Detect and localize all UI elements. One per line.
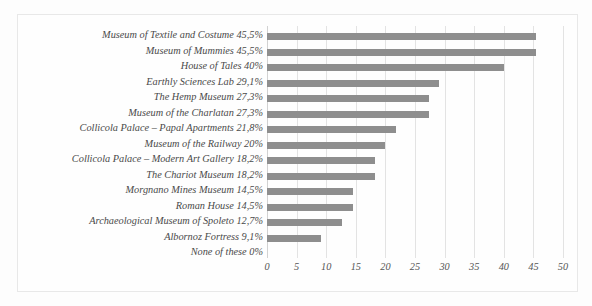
bar-row (267, 232, 563, 248)
chart-frame: Museum of Textile and Costume 45,5%Museu… (17, 14, 578, 292)
gridline-50 (563, 26, 564, 258)
tick-label-50: 50 (558, 261, 568, 272)
bar (267, 49, 536, 56)
category-label: Collicola Palace – Papal Apartments 21,8… (23, 120, 263, 136)
bar-row (267, 92, 563, 108)
chart-screenshot: Museum of Textile and Costume 45,5%Museu… (0, 0, 592, 306)
category-label: Museum of Textile and Costume 45,5% (23, 27, 263, 43)
category-label: None of these 0% (23, 244, 263, 260)
tick-label-45: 45 (528, 261, 538, 272)
category-label: The Hemp Museum 27,3% (23, 89, 263, 105)
category-label: Museum of the Charlatan 27,3% (23, 105, 263, 121)
tick-label-5: 5 (294, 261, 299, 272)
category-label: Archaeological Museum of Spoleto 12,7% (23, 213, 263, 229)
category-label: Museum of the Railway 20% (23, 136, 263, 152)
category-label: Collicola Palace – Modern Art Gallery 18… (23, 151, 263, 167)
bar (267, 188, 353, 195)
bar (267, 173, 375, 180)
bar-row (267, 201, 563, 217)
plot-area (267, 26, 563, 258)
tick-label-10: 10 (321, 261, 331, 272)
bar-row (267, 61, 563, 77)
bar (267, 157, 375, 164)
tick-label-20: 20 (380, 261, 390, 272)
bar-row (267, 108, 563, 124)
bar (267, 95, 429, 102)
bar-row (267, 170, 563, 186)
bar-row (267, 185, 563, 201)
bar (267, 80, 439, 87)
tick-label-35: 35 (469, 261, 479, 272)
category-label: Morgnano Mines Museum 14,5% (23, 182, 263, 198)
tick-label-15: 15 (351, 261, 361, 272)
tick-label-0: 0 (264, 261, 269, 272)
bar-row (267, 46, 563, 62)
bar (267, 142, 385, 149)
category-label: Museum of Mummies 45,5% (23, 43, 263, 59)
bar-row (267, 77, 563, 93)
bar-rows (267, 26, 563, 258)
tick-label-30: 30 (439, 261, 449, 272)
bar-row (267, 216, 563, 232)
bar (267, 64, 504, 71)
category-label: The Chariot Museum 18,2% (23, 167, 263, 183)
bar-row (267, 123, 563, 139)
bar (267, 204, 353, 211)
bar (267, 126, 396, 133)
bar-row (267, 154, 563, 170)
category-label: Earthly Sciences Lab 29,1% (23, 74, 263, 90)
category-label: Albornoz Fortress 9,1% (23, 229, 263, 245)
bar-row (267, 30, 563, 46)
tick-label-40: 40 (499, 261, 509, 272)
bar (267, 219, 342, 226)
x-axis-tick-labels: 05101520253035404550 (267, 261, 563, 279)
bar (267, 111, 429, 118)
bar-row (267, 139, 563, 155)
bar (267, 235, 321, 242)
tick-label-25: 25 (410, 261, 420, 272)
category-label: House of Tales 40% (23, 58, 263, 74)
category-label: Roman House 14,5% (23, 198, 263, 214)
bar (267, 33, 536, 40)
